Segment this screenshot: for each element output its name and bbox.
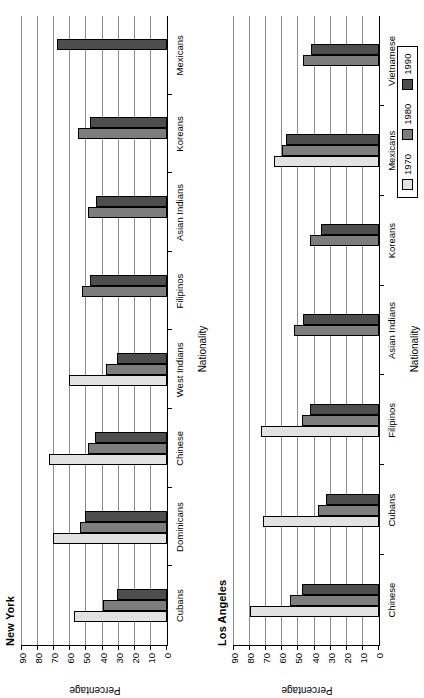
x-axis-tick (167, 172, 172, 173)
legend-label: 1980 (402, 104, 413, 125)
y-axis-tick-label: 30 (325, 653, 336, 664)
y-axis-tick (53, 645, 54, 650)
bar-group: Filipinos (234, 375, 379, 465)
plot-canvas-los-angeles: 0102030405060708090ChineseCubansFilipino… (234, 16, 380, 646)
bar-1980 (103, 600, 167, 611)
x-axis-category-label: Filipinos (386, 403, 397, 438)
bar-1990 (303, 314, 379, 325)
bar-1980 (78, 128, 167, 139)
legend-item-1990: 1990 (402, 54, 413, 90)
y-axis-tick-label: 80 (33, 653, 44, 664)
bar-1990 (286, 134, 379, 145)
y-axis-tick (150, 645, 151, 650)
y-axis-tick-label: 60 (277, 653, 288, 664)
bar-1980 (294, 325, 379, 336)
y-axis-tick-label: 80 (245, 653, 256, 664)
bar-group: Koreans (22, 95, 167, 174)
bar-1980 (88, 207, 167, 218)
bar-1990 (96, 196, 167, 207)
x-axis-category-label: Vietnamese (386, 36, 397, 86)
y-axis-tick (249, 645, 250, 650)
bar-group: Filipinos (22, 252, 167, 331)
x-axis-tick (379, 374, 384, 375)
y-axis-tick-label: 40 (309, 653, 320, 664)
bar-1980 (106, 364, 167, 375)
y-axis-tick (166, 645, 167, 650)
bar-group: Asian Indians (234, 286, 379, 376)
x-axis-category-label: Chinese (386, 583, 397, 618)
y-axis-tick-label: 40 (97, 653, 108, 664)
bar-1990 (326, 494, 379, 505)
x-axis-category-label: Cubans (386, 494, 397, 527)
bar-group: Dominicans (22, 488, 167, 567)
bar-1990 (117, 353, 167, 364)
bar-1970 (69, 375, 167, 386)
legend-item-1980: 1980 (402, 104, 413, 140)
y-axis-tick-label: 20 (341, 653, 352, 664)
y-axis-tick-label: 70 (49, 653, 60, 664)
panels-container: New York Percentage 0102030405060708090C… (0, 0, 424, 698)
bar-1980 (88, 443, 167, 454)
bar-group: Mexicans (22, 16, 167, 95)
x-axis-category-label: Chinese (174, 431, 185, 466)
legend-swatch-icon (402, 179, 413, 190)
x-axis-category-label: West Indians (174, 342, 185, 397)
x-axis-tick (167, 94, 172, 95)
bar-1980 (318, 505, 379, 516)
x-axis-title-new-york: Nationality (197, 326, 208, 373)
bar-1980 (310, 235, 379, 246)
bar-group: Koreans (234, 196, 379, 286)
y-axis-tick-label: 60 (65, 653, 76, 664)
legend-swatch-icon (402, 129, 413, 140)
y-axis-tick (21, 645, 22, 650)
bar-1990 (90, 275, 167, 286)
plot-canvas-new-york: 0102030405060708090CubansDominicansChine… (22, 16, 168, 646)
figure-stage: New York Percentage 0102030405060708090C… (0, 0, 424, 698)
y-axis-tick (346, 645, 347, 650)
x-axis-tick (379, 105, 384, 106)
bar-group: Chinese (234, 555, 379, 645)
bar-1970 (263, 516, 379, 527)
y-axis-tick (378, 645, 379, 650)
bar-1990 (90, 117, 167, 128)
y-axis-tick (233, 645, 234, 650)
bar-1980 (80, 522, 167, 533)
x-axis-tick (379, 285, 384, 286)
x-axis-tick (379, 195, 384, 196)
bar-1990 (310, 404, 379, 415)
x-axis-category-label: Dominicans (174, 502, 185, 552)
bar-1990 (302, 584, 379, 595)
bar-1970 (74, 611, 167, 622)
bar-1970 (49, 454, 167, 465)
bar-1970 (250, 606, 379, 617)
y-axis-tick (281, 645, 282, 650)
bar-group: Chinese (22, 409, 167, 488)
panel-title-new-york: New York (4, 596, 16, 646)
x-axis-category-label: Koreans (386, 223, 397, 258)
y-axis-tick-label: 90 (229, 653, 240, 664)
y-axis-tick (134, 645, 135, 650)
y-axis-tick-label: 0 (374, 653, 385, 658)
x-axis-tick (167, 330, 172, 331)
bar-1970 (274, 156, 379, 167)
legend-label: 1970 (402, 154, 413, 175)
panel-new-york: New York Percentage 0102030405060708090C… (0, 0, 212, 698)
y-axis-title-new-york: Percentage (69, 685, 120, 696)
x-axis-title-los-angeles: Nationality (409, 326, 420, 373)
bar-group: Cubans (234, 465, 379, 555)
panel-title-los-angeles: Los Angeles (216, 580, 228, 646)
plot-area-los-angeles: Percentage 0102030405060708090ChineseCub… (234, 16, 380, 646)
y-axis-tick (37, 645, 38, 650)
bar-1990 (311, 44, 379, 55)
x-axis-category-label: Koreans (174, 116, 185, 151)
bar-group: Mexicans (234, 106, 379, 196)
x-axis-category-label: Filipinos (174, 274, 185, 309)
bar-group: West Indians (22, 331, 167, 410)
chart-legend: 197019801990 (397, 46, 418, 198)
panel-los-angeles: Los Angeles Percentage 01020304050607080… (212, 0, 424, 698)
bar-1990 (321, 224, 379, 235)
y-axis-tick-label: 70 (261, 653, 272, 664)
y-axis-tick (85, 645, 86, 650)
y-axis-tick (362, 645, 363, 650)
x-axis-category-label: Asian Indians (386, 302, 397, 359)
